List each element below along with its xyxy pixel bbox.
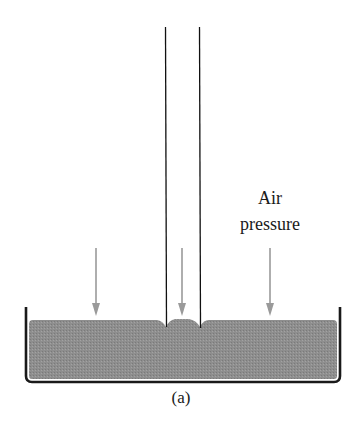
air-pressure-arrow-right-icon	[266, 248, 274, 316]
air-pressure-arrow-center-icon	[178, 248, 186, 316]
tube-right-wall	[200, 27, 201, 328]
air-label: Air	[258, 188, 282, 209]
air-pressure-arrow-left-icon	[92, 248, 100, 316]
liquid-reservoir	[29, 319, 337, 379]
tube-left-wall	[166, 27, 167, 327]
pressure-label: pressure	[240, 214, 300, 235]
capillary-diagram	[0, 0, 361, 432]
figure-caption: (a)	[172, 388, 191, 408]
